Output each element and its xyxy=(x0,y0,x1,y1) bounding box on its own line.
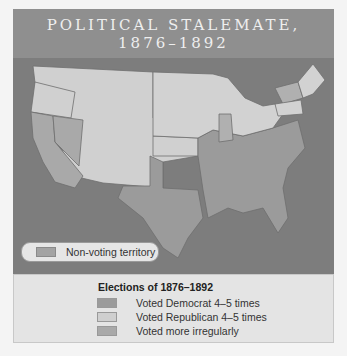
election-legend: Elections of 1876–1892 Voted Democrat 4–… xyxy=(13,274,334,343)
irregular-swatch xyxy=(97,326,117,336)
non-voting-swatch xyxy=(36,247,56,257)
state-kansas xyxy=(153,136,198,156)
legend-label: Voted Democrat 4–5 times xyxy=(136,297,260,309)
state-pennsylvania xyxy=(275,100,303,116)
legend-title: Elections of 1876–1892 xyxy=(98,281,213,293)
southern-states xyxy=(198,120,305,233)
non-voting-legend: Non-voting territory xyxy=(21,242,159,262)
republican-swatch xyxy=(97,312,117,322)
non-voting-label: Non-voting territory xyxy=(66,246,155,258)
us-map: Non-voting territory xyxy=(13,58,334,274)
legend-label: Voted more irregularly xyxy=(136,325,239,337)
legend-item-republican: Voted Republican 4–5 times xyxy=(97,311,267,323)
legend-item-democrat: Voted Democrat 4–5 times xyxy=(97,297,260,309)
democrat-swatch xyxy=(97,298,117,308)
title-line-1: POLITICAL STALEMATE, xyxy=(13,16,334,34)
legend-label: Voted Republican 4–5 times xyxy=(136,311,267,323)
legend-item-irregular: Voted more irregularly xyxy=(97,325,239,337)
state-indiana xyxy=(219,114,233,142)
map-title: POLITICAL STALEMATE, 1876–1892 xyxy=(13,9,334,58)
midwest-states xyxy=(153,72,283,138)
new-england xyxy=(298,64,325,98)
title-line-2: 1876–1892 xyxy=(13,34,334,52)
